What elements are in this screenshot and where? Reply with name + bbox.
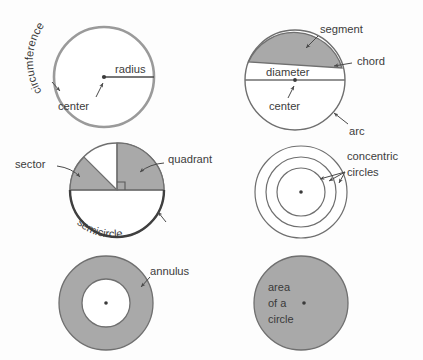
label-circle: circle — [268, 313, 294, 325]
label-chord: chord — [357, 55, 385, 67]
label-quadrant: quadrant — [168, 153, 213, 165]
semicircle-leader — [158, 212, 166, 222]
center-dot — [102, 75, 106, 79]
sector-panel: sector quadrant semicircle — [15, 143, 213, 240]
label-concentric: concentric — [347, 150, 398, 162]
label-segment: segment — [320, 23, 364, 35]
label-sector: sector — [15, 158, 46, 170]
label-area: area — [268, 281, 291, 293]
label-center-2: center — [269, 100, 300, 112]
annulus-center-dot — [104, 301, 108, 305]
label-circumference: circumference — [23, 20, 46, 97]
quadrant-shaded-region — [117, 143, 164, 190]
segment-panel: segment chord diameter center arc — [245, 23, 385, 137]
label-annulus: annulus — [150, 265, 190, 277]
diagram-canvas: circumference radius center segment ch — [0, 0, 423, 360]
segment-shaded-region — [249, 32, 343, 68]
center-dot-2 — [293, 78, 297, 82]
arc-leader — [334, 113, 348, 124]
label-radius: radius — [115, 63, 146, 75]
label-diameter: diameter — [266, 66, 310, 78]
circle-terminology-diagram: circumference radius center segment ch — [0, 0, 423, 360]
area-panel: area of a circle — [254, 256, 348, 350]
label-center-1: center — [58, 100, 89, 112]
concentric-panel: concentric circles — [255, 146, 398, 238]
annulus-panel: annulus — [59, 256, 190, 350]
concentric-center-dot — [299, 190, 303, 194]
label-circles: circles — [347, 166, 379, 178]
circumference-panel: circumference radius center — [23, 20, 154, 127]
label-of-a: of a — [268, 297, 287, 309]
area-center-dot — [302, 301, 306, 305]
label-arc: arc — [349, 125, 365, 137]
